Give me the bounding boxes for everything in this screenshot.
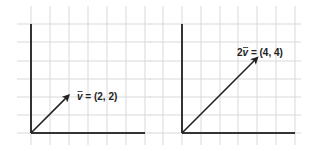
vectors bbox=[31, 58, 257, 133]
vector-scaling-diagram: v = (2, 2)2v = (4, 4) bbox=[0, 0, 323, 151]
diagram-canvas: v = (2, 2)2v = (4, 4) bbox=[0, 0, 323, 151]
vector-label-left: v = (2, 2) bbox=[77, 91, 117, 102]
grid-lines bbox=[17, 6, 301, 145]
vector-labels: v = (2, 2)2v = (4, 4) bbox=[77, 47, 283, 102]
vector-label-right: 2v = (4, 4) bbox=[237, 47, 283, 58]
